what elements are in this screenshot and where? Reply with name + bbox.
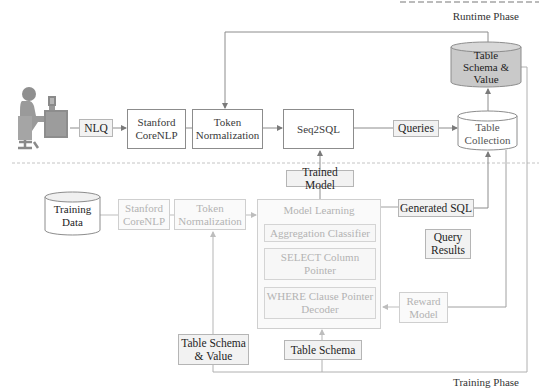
aggregation-classifier-box: Aggregation Classifier bbox=[264, 224, 376, 242]
query-results-line2: Results bbox=[431, 244, 465, 257]
training-data-line1: Training bbox=[54, 203, 92, 216]
table-schema-value-line1: Table bbox=[474, 49, 498, 61]
select-line1: SELECT Column bbox=[281, 251, 359, 264]
reward-model-box: Reward Model bbox=[399, 292, 448, 323]
table-schema-value-line2: Schema & bbox=[463, 61, 509, 73]
training-phase-label: Training Phase bbox=[453, 376, 519, 388]
tsv-line2: & Value bbox=[195, 350, 233, 363]
select-line2: Pointer bbox=[304, 264, 336, 277]
table-collection-line1: Table bbox=[475, 121, 499, 134]
tsv-line1: Table Schema bbox=[181, 337, 246, 350]
training-stanford-line1: Stanford bbox=[125, 202, 163, 215]
training-token-normalization-box: Token Normalization bbox=[174, 199, 246, 230]
stanford-corenlp-line1: Stanford bbox=[138, 116, 176, 129]
seq2sql-box: Seq2SQL bbox=[283, 109, 354, 149]
table-collection-cylinder: Table Collection bbox=[457, 110, 518, 152]
cropped-header-text bbox=[400, 0, 539, 4]
reward-model-line1: Reward bbox=[406, 295, 440, 308]
queries-label: Queries bbox=[393, 120, 439, 137]
nlq-label: NLQ bbox=[79, 119, 113, 137]
training-token-line1: Token bbox=[196, 202, 223, 215]
stanford-corenlp-box: Stanford CoreNLP bbox=[127, 109, 186, 149]
token-normalization-line2: Normalization bbox=[196, 129, 260, 142]
training-data-cylinder: Training Data bbox=[44, 191, 101, 237]
where-line2: Decoder bbox=[301, 303, 338, 316]
trained-model-label: Trained Model bbox=[286, 170, 354, 187]
query-results-line1: Query bbox=[434, 231, 463, 244]
training-token-line2: Normalization bbox=[178, 215, 242, 228]
reward-model-line2: Model bbox=[409, 308, 438, 321]
model-learning-box: Model Learning Aggregation Classifier SE… bbox=[257, 199, 381, 329]
model-learning-title: Model Learning bbox=[258, 204, 380, 216]
generated-sql-label: Generated SQL bbox=[398, 199, 474, 217]
table-collection-line2: Collection bbox=[465, 134, 511, 147]
stanford-corenlp-line2: CoreNLP bbox=[135, 129, 177, 142]
table-schema-value-line3: Value bbox=[473, 73, 498, 85]
training-stanford-corenlp-box: Stanford CoreNLP bbox=[118, 199, 170, 230]
person-at-computer-icon bbox=[16, 86, 72, 152]
training-stanford-line2: CoreNLP bbox=[123, 215, 165, 228]
token-normalization-box: Token Normalization bbox=[192, 109, 263, 149]
token-normalization-line1: Token bbox=[214, 116, 241, 129]
training-data-line2: Data bbox=[62, 216, 83, 229]
where-line1: WHERE Clause Pointer bbox=[267, 290, 373, 303]
training-table-schema-value-label: Table Schema & Value bbox=[178, 334, 249, 365]
where-clause-pointer-decoder-box: WHERE Clause Pointer Decoder bbox=[264, 287, 376, 319]
table-schema-value-cylinder: Table Schema & Value bbox=[450, 41, 522, 89]
query-results-label: Query Results bbox=[425, 229, 471, 259]
runtime-phase-label: Runtime Phase bbox=[453, 10, 519, 22]
table-schema-label: Table Schema bbox=[284, 340, 362, 360]
select-column-pointer-box: SELECT Column Pointer bbox=[264, 248, 376, 280]
